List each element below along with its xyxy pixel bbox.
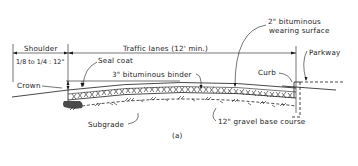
figure-label: (a)	[172, 131, 183, 140]
wearing-surface-label-line1: 2" bituminous	[268, 17, 321, 26]
binder-label: 3" bituminous binder	[112, 70, 192, 79]
wearing-surface-label-line2: wearing surface	[269, 26, 330, 35]
pavement-cross-section-diagram: Shoulder 1/8 to 1/4 : 12" Traffic lanes …	[0, 0, 358, 166]
base-course-label: 12" gravel base course	[218, 117, 306, 126]
shoulder-slope-label: 1/8 to 1/4 : 12"	[16, 58, 64, 66]
seal-coat-label: Seal coat	[98, 56, 133, 65]
curb-label: Curb	[258, 68, 276, 77]
pavement-layers	[63, 82, 296, 110]
parkway-label: Parkway	[309, 48, 341, 57]
traffic-lanes-label: Traffic lanes (12' min.)	[122, 44, 208, 53]
subgrade-label: Subgrade	[88, 120, 125, 129]
shoulder-label: Shoulder	[24, 44, 58, 53]
crown-label: Crown	[17, 81, 41, 90]
